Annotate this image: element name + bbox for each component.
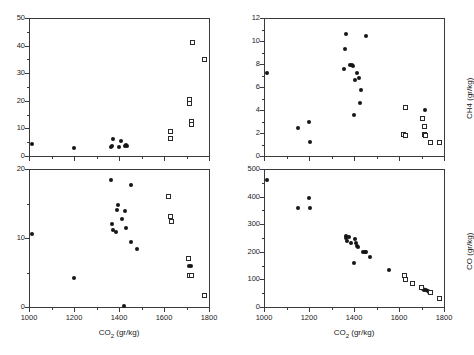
- data-point-filled-circle: [296, 206, 300, 210]
- data-point-open-square: [428, 290, 433, 295]
- data-point-filled-circle: [307, 196, 311, 200]
- y-tick: [260, 252, 264, 253]
- x-tick: [264, 308, 265, 312]
- y-tick-label: 200: [230, 248, 260, 256]
- x-tick-label: 1200: [289, 314, 329, 322]
- y-minor-tick: [262, 266, 264, 267]
- x-axis-title: CO2 (gr/kg): [314, 329, 394, 339]
- data-point-open-square: [410, 281, 415, 286]
- x-tick: [309, 308, 310, 312]
- axis-line-top: [264, 169, 445, 170]
- x-tick-label: 1000: [244, 314, 284, 322]
- axis-line-left: [264, 169, 265, 308]
- data-point-filled-circle: [352, 261, 356, 265]
- y-minor-tick: [262, 293, 264, 294]
- data-point-filled-circle: [364, 250, 368, 254]
- data-point-filled-circle: [368, 255, 372, 259]
- x-minor-tick: [332, 308, 333, 310]
- data-point-open-square: [419, 285, 424, 290]
- y-minor-tick: [262, 183, 264, 184]
- y-tick-label: 300: [230, 220, 260, 228]
- x-minor-tick: [377, 308, 378, 310]
- axis-line-right: [444, 169, 445, 308]
- data-point-filled-circle: [308, 206, 312, 210]
- y-tick-label: 400: [230, 193, 260, 201]
- y-tick: [260, 224, 264, 225]
- x-tick-label: 1600: [379, 314, 419, 322]
- data-point-filled-circle: [387, 268, 391, 272]
- x-tick-label: 1400: [334, 314, 374, 322]
- y-tick-label: 0: [230, 303, 260, 311]
- data-point-filled-circle: [265, 178, 269, 182]
- data-point-filled-circle: [347, 235, 351, 239]
- y-tick-label: 100: [230, 275, 260, 283]
- y-tick: [260, 279, 264, 280]
- data-point-open-square: [403, 277, 408, 282]
- data-point-filled-circle: [349, 241, 353, 245]
- y-minor-tick: [262, 210, 264, 211]
- y-axis-title: CO (gr/kg): [466, 233, 474, 270]
- x-minor-tick: [287, 308, 288, 310]
- data-point-open-square: [437, 296, 442, 301]
- y-tick: [260, 169, 264, 170]
- x-tick-label: 1800: [424, 314, 464, 322]
- y-minor-tick: [262, 238, 264, 239]
- x-tick: [354, 308, 355, 312]
- data-point-filled-circle: [356, 245, 360, 249]
- x-tick: [399, 308, 400, 312]
- y-tick-label: 500: [230, 165, 260, 173]
- x-minor-tick: [422, 308, 423, 310]
- x-tick: [444, 308, 445, 312]
- y-tick: [260, 197, 264, 198]
- data-point-filled-circle: [353, 237, 357, 241]
